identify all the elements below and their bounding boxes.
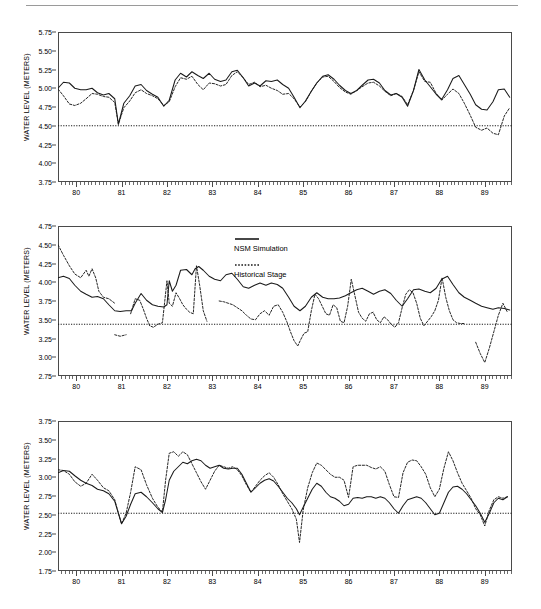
y-tick-mark	[52, 477, 56, 478]
x-tick-minor	[114, 182, 115, 185]
x-tick-major	[485, 376, 486, 381]
x-tick-minor	[462, 182, 463, 185]
x-tick-minor	[182, 376, 183, 379]
x-tick-minor	[504, 376, 505, 379]
x-tick-minor	[243, 376, 244, 379]
x-tick-minor	[443, 376, 444, 379]
x-tick-minor	[231, 182, 232, 185]
x-tick-label: 89	[481, 189, 489, 196]
x-tick-minor	[333, 182, 334, 185]
x-tick-minor	[371, 571, 372, 574]
y-tick-label: 2.00	[38, 549, 52, 556]
y-tick-mark	[52, 514, 56, 515]
x-tick-minor	[239, 571, 240, 574]
x-tick-minor	[420, 376, 421, 379]
x-tick-minor	[129, 376, 130, 379]
chart-panel-1: WATER LEVEL (METERS) 3.754.004.254.504.7…	[0, 22, 541, 207]
x-tick-minor	[273, 182, 274, 185]
x-tick-minor	[156, 571, 157, 574]
x-tick-minor	[220, 571, 221, 574]
x-tick-minor	[163, 571, 164, 574]
x-tick-minor	[182, 571, 183, 574]
x-tick-minor	[360, 182, 361, 185]
x-tick-minor	[254, 182, 255, 185]
y-tick-label: 4.75	[38, 223, 52, 230]
x-tick-minor	[125, 571, 126, 574]
x-tick-minor	[402, 182, 403, 185]
x-tick-minor	[375, 376, 376, 379]
legend: NSM Simulation Historical Stage	[234, 234, 288, 281]
x-tick-minor	[398, 376, 399, 379]
x-tick-label: 87	[390, 578, 398, 585]
x-tick-minor	[496, 376, 497, 379]
x-tick-label: 82	[163, 189, 171, 196]
x-tick-minor	[507, 376, 508, 379]
y-axis-ticks: 2.753.003.253.503.754.004.254.504.75	[0, 226, 56, 376]
x-tick-minor	[110, 571, 111, 574]
y-tick-mark	[52, 571, 56, 572]
x-tick-minor	[477, 182, 478, 185]
x-tick-label: 86	[345, 578, 353, 585]
x-tick-minor	[175, 376, 176, 379]
x-tick-minor	[220, 376, 221, 379]
x-tick-minor	[103, 571, 104, 574]
x-tick-minor	[148, 571, 149, 574]
x-tick-minor	[330, 182, 331, 185]
x-tick-minor	[417, 571, 418, 574]
x-tick-minor	[216, 571, 217, 574]
series-line-historical-stage	[58, 452, 507, 543]
x-tick-minor	[118, 376, 119, 379]
x-tick-minor	[190, 571, 191, 574]
plot-area: NSM Simulation Historical Stage	[58, 226, 512, 376]
x-tick-major	[349, 182, 350, 187]
x-tick-minor	[364, 376, 365, 379]
x-tick-minor	[125, 182, 126, 185]
x-tick-major	[485, 182, 486, 187]
x-tick-minor	[262, 571, 263, 574]
y-tick-mark	[52, 376, 56, 377]
x-tick-minor	[163, 376, 164, 379]
x-tick-minor	[451, 376, 452, 379]
x-tick-minor	[106, 182, 107, 185]
x-tick-minor	[504, 571, 505, 574]
series-line-nsm-simulation	[58, 70, 510, 125]
x-tick-minor	[337, 571, 338, 574]
x-tick-minor	[118, 571, 119, 574]
x-tick-minor	[500, 376, 501, 379]
x-tick-minor	[144, 182, 145, 185]
x-tick-minor	[307, 182, 308, 185]
x-tick-minor	[481, 571, 482, 574]
x-tick-minor	[231, 376, 232, 379]
x-tick-minor	[326, 376, 327, 379]
x-tick-minor	[288, 376, 289, 379]
x-tick-minor	[405, 571, 406, 574]
x-tick-major	[394, 376, 395, 381]
x-tick-major	[167, 571, 168, 576]
x-tick-minor	[473, 376, 474, 379]
x-tick-minor	[470, 182, 471, 185]
x-tick-label: 84	[254, 189, 262, 196]
y-tick-mark	[52, 319, 56, 320]
x-tick-minor	[360, 376, 361, 379]
x-tick-minor	[364, 182, 365, 185]
y-tick-label: 4.25	[38, 260, 52, 267]
x-tick-label: 88	[435, 383, 443, 390]
x-tick-minor	[227, 571, 228, 574]
series-line-historical-stage	[115, 335, 126, 337]
x-tick-minor	[65, 182, 66, 185]
x-tick-minor	[424, 182, 425, 185]
x-tick-minor	[322, 571, 323, 574]
x-tick-minor	[507, 182, 508, 185]
x-tick-minor	[243, 182, 244, 185]
x-tick-minor	[159, 182, 160, 185]
y-tick-label: 5.25	[38, 66, 52, 73]
x-tick-minor	[402, 376, 403, 379]
x-tick-minor	[163, 182, 164, 185]
x-tick-label: 86	[345, 383, 353, 390]
x-tick-minor	[409, 376, 410, 379]
x-tick-minor	[106, 376, 107, 379]
x-tick-minor	[239, 182, 240, 185]
x-tick-minor	[235, 376, 236, 379]
y-tick-mark	[52, 163, 56, 164]
x-tick-minor	[65, 376, 66, 379]
